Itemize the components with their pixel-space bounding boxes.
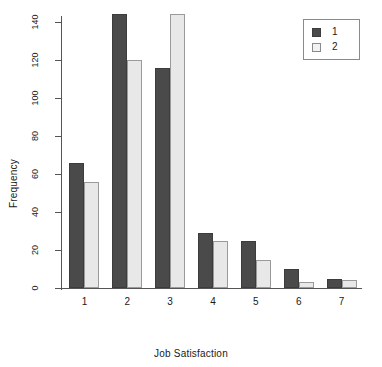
legend-label: 2 bbox=[332, 42, 338, 52]
legend: 1 2 bbox=[303, 19, 360, 60]
legend-swatch-icon bbox=[312, 28, 321, 37]
y-tick-mark bbox=[55, 288, 61, 289]
y-tick-label: 80 bbox=[29, 123, 41, 149]
x-axis-label: Job Satisfaction bbox=[0, 348, 382, 359]
x-tick-label: 1 bbox=[69, 296, 99, 307]
y-tick-mark bbox=[55, 136, 61, 137]
legend-item-1: 1 bbox=[312, 25, 338, 39]
x-tick-label: 6 bbox=[284, 296, 314, 307]
bar bbox=[84, 182, 99, 288]
y-tick-mark bbox=[55, 22, 61, 23]
x-tick-label: 4 bbox=[198, 296, 228, 307]
bar bbox=[213, 241, 228, 289]
y-tick-label: 100 bbox=[29, 85, 41, 111]
bar bbox=[241, 241, 256, 289]
bar-series-group bbox=[62, 22, 362, 288]
y-tick-label: 140 bbox=[29, 9, 41, 35]
bar bbox=[112, 14, 127, 288]
x-tick-label: 5 bbox=[241, 296, 271, 307]
bar bbox=[284, 269, 299, 288]
bar bbox=[256, 260, 271, 289]
bar bbox=[170, 14, 185, 288]
x-tick-label: 3 bbox=[155, 296, 185, 307]
bar bbox=[155, 68, 170, 288]
y-tick-mark bbox=[55, 60, 61, 61]
bar bbox=[198, 233, 213, 288]
x-tick-label: 2 bbox=[112, 296, 142, 307]
y-tick-mark bbox=[55, 212, 61, 213]
legend-item-2: 2 bbox=[312, 40, 338, 54]
y-tick-mark bbox=[55, 174, 61, 175]
bar bbox=[327, 279, 342, 289]
x-axis-line bbox=[61, 288, 362, 289]
legend-swatch-icon bbox=[312, 43, 321, 52]
y-tick-label: 20 bbox=[29, 237, 41, 263]
bar-chart: Frequency Job Satisfaction 0204060801001… bbox=[0, 0, 382, 367]
bar bbox=[69, 163, 84, 288]
bar bbox=[127, 60, 142, 288]
x-tick-label: 7 bbox=[327, 296, 357, 307]
bar bbox=[342, 280, 357, 288]
y-axis-label: Frequency bbox=[8, 0, 28, 367]
y-tick-mark bbox=[55, 98, 61, 99]
y-tick-label: 0 bbox=[29, 275, 41, 301]
y-tick-label: 60 bbox=[29, 161, 41, 187]
bar bbox=[299, 282, 314, 288]
y-tick-label: 40 bbox=[29, 199, 41, 225]
y-tick-mark bbox=[55, 250, 61, 251]
legend-label: 1 bbox=[332, 27, 338, 37]
y-tick-label: 120 bbox=[29, 47, 41, 73]
